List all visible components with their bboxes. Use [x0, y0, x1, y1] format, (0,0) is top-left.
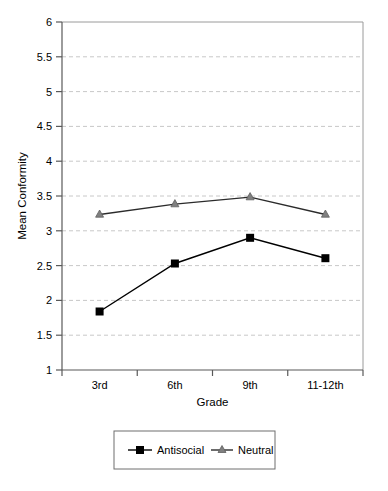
- y-tick-label: 4.5: [37, 120, 52, 132]
- y-tick-label: 5: [46, 86, 52, 98]
- x-tick-label: 9th: [242, 379, 257, 391]
- x-tick-label: 11-12th: [307, 379, 344, 391]
- y-tick-label: 1: [46, 364, 52, 376]
- legend-label-neutral: Neutral: [238, 444, 273, 456]
- x-tick-label: 6th: [167, 379, 182, 391]
- chart-figure: 1 1.5 2 2.5 3 3.5 4 4.5 5 5.5 6 3rd 6th …: [0, 0, 388, 491]
- y-tick-label: 3: [46, 225, 52, 237]
- y-tick-label: 1.5: [37, 329, 52, 341]
- y-tick-label: 2.5: [37, 260, 52, 272]
- y-tick-label: 2: [46, 294, 52, 306]
- x-axis-tick-labels: 3rd 6th 9th 11-12th: [92, 379, 344, 391]
- y-axis-title: Mean Conformity: [16, 152, 28, 240]
- x-axis-ticks: [62, 370, 363, 376]
- y-axis-tick-labels: 1 1.5 2 2.5 3 3.5 4 4.5 5 5.5 6: [37, 16, 52, 376]
- antisocial-marker: [246, 234, 254, 242]
- y-tick-label: 5.5: [37, 51, 52, 63]
- legend-marker-square-icon: [136, 446, 144, 454]
- line-chart: 1 1.5 2 2.5 3 3.5 4 4.5 5 5.5 6 3rd 6th …: [0, 0, 388, 491]
- y-tick-label: 3.5: [37, 190, 52, 202]
- y-axis-ticks: [56, 22, 62, 370]
- y-tick-label: 4: [46, 155, 52, 167]
- legend-label-antisocial: Antisocial: [157, 444, 204, 456]
- x-axis-title: Grade: [197, 396, 229, 408]
- y-tick-label: 6: [46, 16, 52, 28]
- antisocial-marker: [171, 260, 179, 268]
- x-tick-label: 3rd: [92, 379, 108, 391]
- antisocial-marker: [96, 308, 104, 316]
- chart-legend: Antisocial Neutral: [114, 431, 275, 469]
- antisocial-marker: [321, 254, 329, 262]
